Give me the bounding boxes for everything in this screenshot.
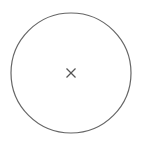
diagram-canvas [0, 0, 141, 145]
